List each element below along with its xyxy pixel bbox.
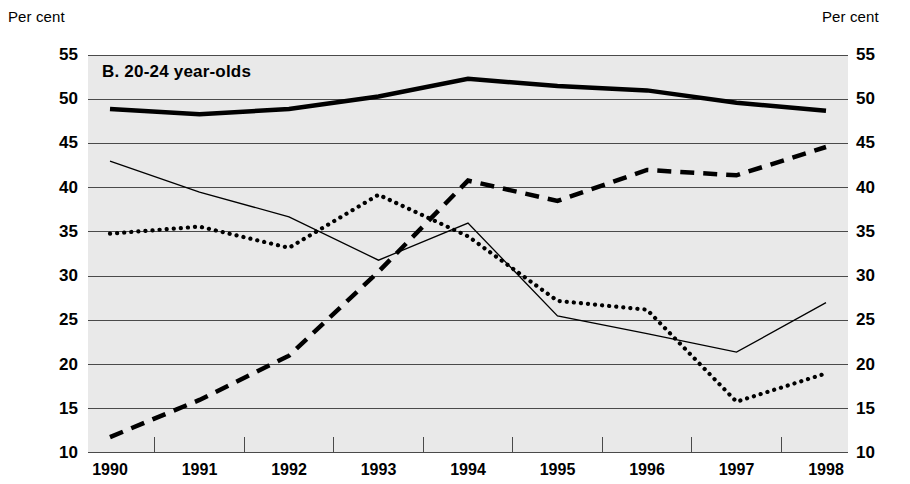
y-tick-label-left-35: 35 [59,223,78,240]
y-tick-label-left-40: 40 [59,179,78,196]
x-tick-label-1990: 1990 [75,461,145,479]
y-tick-label-left-55: 55 [59,46,78,63]
y-tick-label-left-20: 20 [59,356,78,373]
y-tick-label-right-10: 10 [856,444,875,461]
y-tick-label-right-45: 45 [856,134,875,151]
y-tick-label-right-35: 35 [856,223,875,240]
x-tick-label-1998: 1998 [791,461,861,479]
y-tick-label-right-25: 25 [856,311,875,328]
y-tick-label-right-15: 15 [856,400,875,417]
y-tick-label-left-25: 25 [59,311,78,328]
series-lines [88,55,848,453]
left-axis-unit-label: Per cent [8,8,65,25]
series-thick-solid [110,79,826,114]
y-tick-label-right-20: 20 [856,356,875,373]
plot-area [88,55,848,453]
y-tick-label-right-50: 50 [856,90,875,107]
x-tick-label-1994: 1994 [433,461,503,479]
series-thick-dashed [110,147,826,437]
x-tick-label-1993: 1993 [344,461,414,479]
y-tick-label-right-40: 40 [856,179,875,196]
x-tick-label-1991: 1991 [165,461,235,479]
panel-title: B. 20-24 year-olds [102,62,251,82]
y-tick-label-right-55: 55 [856,46,875,63]
series-dotted [110,195,826,402]
series-thin-solid [110,161,826,352]
x-tick-label-1995: 1995 [523,461,593,479]
right-axis-unit-label: Per cent [822,8,879,25]
y-tick-label-left-30: 30 [59,267,78,284]
y-tick-label-left-10: 10 [59,444,78,461]
x-tick-label-1992: 1992 [254,461,324,479]
y-tick-label-left-45: 45 [59,134,78,151]
y-tick-label-right-30: 30 [856,267,875,284]
x-tick-label-1996: 1996 [612,461,682,479]
y-tick-label-left-15: 15 [59,400,78,417]
x-tick-label-1997: 1997 [702,461,772,479]
y-tick-label-left-50: 50 [59,90,78,107]
chart-figure: Per cent Per cent B. 20-24 year-olds 555… [0,0,910,484]
